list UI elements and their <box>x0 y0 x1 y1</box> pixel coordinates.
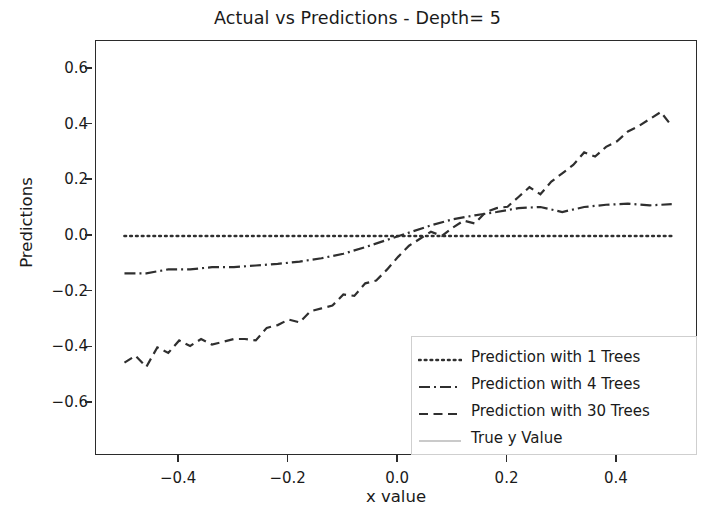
legend-swatch <box>418 351 462 363</box>
x-tick-mark <box>506 455 508 462</box>
chart-title: Actual vs Predictions - Depth= 5 <box>0 8 715 28</box>
chart-figure: Actual vs Predictions - Depth= 5 Predict… <box>0 0 715 522</box>
x-tick-mark <box>177 455 179 462</box>
x-axis-ticklabels: −0.4−0.20.00.20.4 <box>95 462 697 484</box>
legend-item: Prediction with 30 Trees <box>418 397 688 424</box>
y-tick-label: −0.2 <box>34 282 88 300</box>
y-axis-ticklabels: 0.60.40.20.0−0.2−0.4−0.6 <box>26 40 88 455</box>
legend-swatch <box>418 432 462 444</box>
legend-label: Prediction with 1 Trees <box>471 348 640 366</box>
legend-item: True y Value <box>418 424 688 451</box>
legend-swatch <box>418 378 462 390</box>
y-tick-mark <box>85 123 92 125</box>
y-tick-mark <box>85 401 92 403</box>
series-line <box>124 112 671 367</box>
x-tick-label: 0.0 <box>362 469 432 487</box>
y-tick-mark <box>85 178 92 180</box>
legend-label: Prediction with 4 Trees <box>471 375 640 393</box>
x-tick-mark <box>615 455 617 462</box>
y-tick-mark <box>85 290 92 292</box>
x-tick-mark <box>287 455 289 462</box>
x-tick-label: −0.2 <box>253 469 323 487</box>
y-tick-label: 0.6 <box>34 59 88 77</box>
y-tick-label: 0.2 <box>34 170 88 188</box>
chart-legend: Prediction with 1 TreesPrediction with 4… <box>411 336 697 455</box>
x-tick-label: 0.4 <box>581 469 651 487</box>
series-line <box>124 204 671 274</box>
y-tick-label: −0.6 <box>34 393 88 411</box>
y-tick-mark <box>85 67 92 69</box>
legend-label: True y Value <box>471 429 562 447</box>
x-tick-label: 0.2 <box>472 469 542 487</box>
x-tick-label: −0.4 <box>143 469 213 487</box>
legend-swatch <box>418 405 462 417</box>
y-tick-label: 0.4 <box>34 115 88 133</box>
legend-item: Prediction with 1 Trees <box>418 343 688 370</box>
y-tick-label: −0.4 <box>34 337 88 355</box>
y-tick-mark <box>85 346 92 348</box>
y-tick-label: 0.0 <box>34 226 88 244</box>
x-tick-mark <box>396 455 398 462</box>
legend-label: Prediction with 30 Trees <box>471 402 650 420</box>
y-tick-mark <box>85 234 92 236</box>
legend-item: Prediction with 4 Trees <box>418 370 688 397</box>
x-axis-label: x value <box>95 487 697 506</box>
